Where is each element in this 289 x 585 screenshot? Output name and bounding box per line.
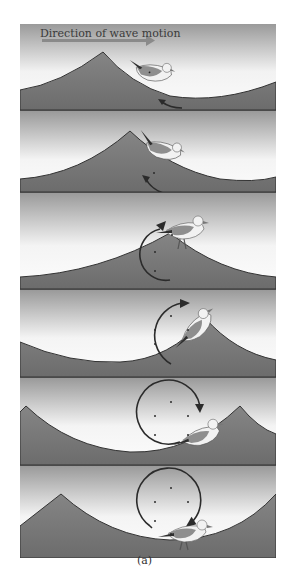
panel-6-scene (20, 466, 276, 558)
panel-6 (20, 466, 276, 558)
orbit-dot (187, 329, 189, 331)
orbit-dot (154, 434, 156, 436)
figure-caption: (a) (0, 554, 289, 567)
orbit-dot (187, 501, 189, 503)
panel-3 (20, 193, 276, 290)
orbit-dot (154, 329, 156, 331)
panel-5-scene (20, 378, 276, 465)
panel-2 (20, 111, 276, 193)
panel-3-scene (20, 193, 276, 289)
orbit-dot (171, 234, 173, 236)
orbit-dot (170, 533, 172, 535)
panel-1: Direction of wave motion (20, 24, 276, 111)
wave-direction-title: Direction of wave motion (40, 27, 181, 40)
orbit-dot (187, 415, 189, 417)
orbit-dot (154, 251, 156, 253)
panel-5 (20, 378, 276, 466)
panel-2-scene (20, 111, 276, 192)
orbit-dot (154, 501, 156, 503)
panel-4-scene (20, 290, 276, 377)
orbit-dot (154, 415, 156, 417)
panel-4 (20, 290, 276, 378)
wave-orbital-motion-figure: Direction of wave motion (20, 24, 276, 558)
orbit-dot (154, 270, 156, 272)
orbit-dot (170, 401, 172, 403)
orbit-dot (170, 315, 172, 317)
orbit-dot (187, 434, 189, 436)
orbit-dot (153, 172, 155, 174)
orbit-dot (154, 520, 156, 522)
orbit-dot (154, 343, 156, 345)
orbit-dot (170, 487, 172, 489)
